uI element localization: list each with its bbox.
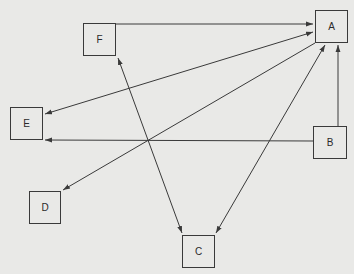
edge-f-c <box>118 58 182 233</box>
edge-b-to-e <box>45 140 313 141</box>
node-d-label: D <box>41 202 48 213</box>
node-c: C <box>182 235 215 268</box>
node-e-label: E <box>23 118 30 129</box>
node-a: A <box>315 10 348 43</box>
node-c-label: C <box>195 246 202 257</box>
edge-a-to-d <box>63 43 315 190</box>
node-a-label: A <box>328 21 335 32</box>
node-b: B <box>313 126 347 159</box>
node-f-label: F <box>96 34 102 45</box>
node-e: E <box>10 107 43 140</box>
node-f: F <box>83 23 116 56</box>
edge-c-a <box>216 45 325 233</box>
diagram-edges <box>0 0 354 274</box>
node-b-label: B <box>327 137 334 148</box>
node-d: D <box>29 191 61 224</box>
